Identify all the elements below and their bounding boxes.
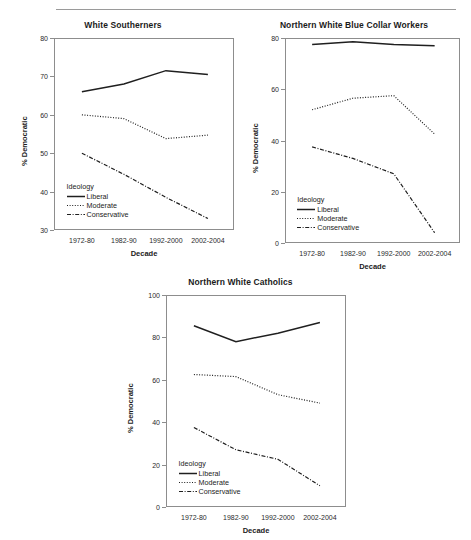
plot-area: IdeologyLiberalModerateConservative bbox=[166, 295, 346, 507]
y-axis-tick-mark bbox=[162, 380, 166, 381]
legend-swatch-dotted-icon bbox=[67, 201, 85, 210]
x-axis-tick-label: 2002-2004 bbox=[303, 514, 336, 521]
y-axis-tick-mark bbox=[162, 295, 166, 296]
legend-label: Liberal bbox=[87, 192, 109, 201]
y-axis-tick-mark bbox=[50, 76, 54, 77]
series-line-moderate bbox=[194, 375, 320, 404]
legend-label: Moderate bbox=[317, 214, 347, 223]
y-axis-tick-mark bbox=[162, 465, 166, 466]
y-axis-tick-mark bbox=[281, 89, 285, 90]
y-axis-tick-label: 0 bbox=[118, 504, 160, 511]
x-axis-tick-label: 1972-80 bbox=[69, 237, 95, 244]
series-line-moderate bbox=[82, 115, 208, 139]
y-axis-label: % Democratic bbox=[20, 116, 29, 166]
chart-panel-3: Northern White CatholicsIdeologyLiberalM… bbox=[118, 277, 363, 540]
legend-title: Ideology bbox=[297, 195, 359, 204]
legend-swatch-dashdot-icon bbox=[179, 487, 197, 496]
x-axis-label: Decade bbox=[131, 249, 158, 258]
y-axis-tick-label: 0 bbox=[243, 240, 279, 247]
y-axis-tick-label: 60 bbox=[243, 86, 279, 93]
y-axis-tick-mark bbox=[281, 192, 285, 193]
legend-item-liberal[interactable]: Liberal bbox=[67, 192, 129, 201]
chart-title: Northern White Blue Collar Workers bbox=[243, 20, 465, 30]
legend-item-moderate[interactable]: Moderate bbox=[297, 214, 359, 223]
y-axis-tick-label: 20 bbox=[243, 188, 279, 195]
x-axis-tick-label: 1982-90 bbox=[111, 237, 137, 244]
legend-swatch-solid-icon bbox=[297, 205, 315, 214]
legend-title: Ideology bbox=[179, 459, 241, 468]
y-axis-tick-mark bbox=[281, 38, 285, 39]
x-axis-tick-label: 2002-2004 bbox=[191, 237, 224, 244]
legend-item-conservative[interactable]: Conservative bbox=[67, 210, 129, 219]
legend-item-conservative[interactable]: Conservative bbox=[179, 487, 241, 496]
chart-title: Northern White Catholics bbox=[118, 277, 363, 287]
x-axis-tick-label: 1992-2000 bbox=[149, 237, 182, 244]
top-divider-rule bbox=[56, 9, 456, 10]
y-axis-tick-label: 40 bbox=[12, 188, 48, 195]
x-axis-label: Decade bbox=[359, 262, 386, 271]
x-axis-tick-label: 1992-2000 bbox=[377, 250, 410, 257]
y-axis-tick-label: 60 bbox=[12, 111, 48, 118]
y-axis-tick-mark bbox=[50, 38, 54, 39]
y-axis-tick-label: 20 bbox=[118, 461, 160, 468]
legend: IdeologyLiberalModerateConservative bbox=[67, 182, 129, 219]
x-axis-tick-label: 1992-2000 bbox=[261, 514, 294, 521]
chart-panel-1: White SouthernersIdeologyLiberalModerate… bbox=[12, 20, 234, 270]
series-line-moderate bbox=[312, 96, 435, 134]
legend-label: Liberal bbox=[317, 205, 339, 214]
y-axis-tick-label: 70 bbox=[12, 73, 48, 80]
legend-item-moderate[interactable]: Moderate bbox=[67, 201, 129, 210]
y-axis-tick-mark bbox=[50, 153, 54, 154]
legend-swatch-dashdot-icon bbox=[297, 223, 315, 232]
legend-label: Conservative bbox=[317, 223, 359, 232]
y-axis-tick-mark bbox=[50, 230, 54, 231]
chart-title: White Southerners bbox=[12, 20, 234, 30]
y-axis-tick-label: 40 bbox=[243, 137, 279, 144]
series-line-liberal bbox=[312, 42, 435, 46]
y-axis-tick-mark bbox=[281, 243, 285, 244]
y-axis-tick-label: 60 bbox=[118, 376, 160, 383]
x-axis-tick-label: 1972-80 bbox=[299, 250, 325, 257]
x-axis-label: Decade bbox=[243, 526, 270, 535]
legend-label: Liberal bbox=[199, 469, 221, 478]
y-axis-tick-mark bbox=[162, 337, 166, 338]
legend-swatch-dashdot-icon bbox=[67, 210, 85, 219]
legend-swatch-dotted-icon bbox=[179, 478, 197, 487]
legend: IdeologyLiberalModerateConservative bbox=[179, 459, 241, 496]
y-axis-tick-mark bbox=[162, 507, 166, 508]
y-axis-tick-mark bbox=[281, 141, 285, 142]
legend-item-liberal[interactable]: Liberal bbox=[297, 205, 359, 214]
x-axis-tick-label: 1982-90 bbox=[340, 250, 366, 257]
y-axis-tick-label: 50 bbox=[12, 150, 48, 157]
legend-label: Conservative bbox=[87, 210, 129, 219]
legend-item-liberal[interactable]: Liberal bbox=[179, 469, 241, 478]
legend-swatch-solid-icon bbox=[67, 192, 85, 201]
legend-item-conservative[interactable]: Conservative bbox=[297, 223, 359, 232]
legend-title: Ideology bbox=[67, 182, 129, 191]
legend-label: Moderate bbox=[87, 201, 117, 210]
y-axis-label: % Democratic bbox=[251, 123, 260, 173]
series-line-liberal bbox=[82, 71, 208, 92]
y-axis-label: % Democratic bbox=[126, 383, 135, 433]
y-axis-tick-mark bbox=[50, 192, 54, 193]
legend-swatch-solid-icon bbox=[179, 469, 197, 478]
y-axis-tick-mark bbox=[162, 422, 166, 423]
x-axis-tick-label: 1982-90 bbox=[223, 514, 249, 521]
series-line-liberal bbox=[194, 323, 320, 342]
chart-panel-2: Northern White Blue Collar WorkersIdeolo… bbox=[243, 20, 465, 283]
legend-swatch-dotted-icon bbox=[297, 214, 315, 223]
y-axis-tick-label: 40 bbox=[118, 419, 160, 426]
plot-area: IdeologyLiberalModerateConservative bbox=[54, 38, 234, 230]
y-axis-tick-label: 30 bbox=[12, 227, 48, 234]
y-axis-tick-label: 80 bbox=[243, 35, 279, 42]
y-axis-tick-label: 80 bbox=[118, 334, 160, 341]
legend-label: Conservative bbox=[199, 487, 241, 496]
plot-area: IdeologyLiberalModerateConservative bbox=[285, 38, 460, 243]
y-axis-tick-label: 80 bbox=[12, 35, 48, 42]
x-axis-tick-label: 1972-80 bbox=[181, 514, 207, 521]
legend-label: Moderate bbox=[199, 478, 229, 487]
x-axis-tick-label: 2002-2004 bbox=[418, 250, 451, 257]
legend-item-moderate[interactable]: Moderate bbox=[179, 478, 241, 487]
y-axis-tick-label: 100 bbox=[118, 292, 160, 299]
y-axis-tick-mark bbox=[50, 115, 54, 116]
